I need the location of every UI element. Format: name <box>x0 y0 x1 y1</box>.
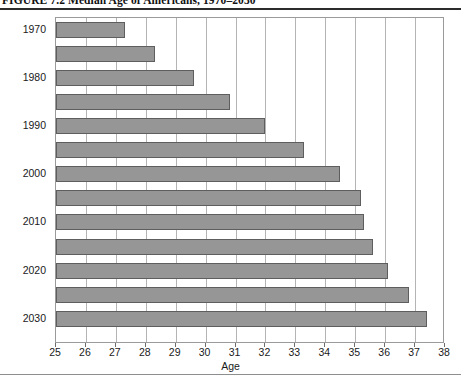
y-axis-tick-label: 2000 <box>23 167 46 179</box>
bars-layer <box>56 18 443 342</box>
x-axis-tick-label: 38 <box>438 346 450 358</box>
bar <box>56 239 373 255</box>
y-axis-labels: 1970198019902000201020202030 <box>0 17 51 343</box>
y-axis-tick-label: 2030 <box>23 312 46 324</box>
x-axis-tick-label: 34 <box>318 346 330 358</box>
bar <box>56 190 361 206</box>
title-divider <box>0 8 461 10</box>
x-axis-tick-label: 26 <box>79 346 91 358</box>
bar <box>56 94 230 110</box>
y-axis-tick-label: 2020 <box>23 264 46 276</box>
bar <box>56 142 304 158</box>
bar <box>56 166 340 182</box>
bar <box>56 263 388 279</box>
bar <box>56 22 125 38</box>
figure-container: FIGURE 7.2 Median Age of Americans, 1970… <box>0 0 461 377</box>
y-axis-tick-label: 1990 <box>23 119 46 131</box>
x-axis-tick-label: 27 <box>109 346 121 358</box>
x-axis-tick-label: 29 <box>169 346 181 358</box>
bar <box>56 70 194 86</box>
x-axis-tick-label: 37 <box>408 346 420 358</box>
figure-title-strip: FIGURE 7.2 Median Age of Americans, 1970… <box>0 0 461 8</box>
bar <box>56 311 427 327</box>
bar <box>56 287 409 303</box>
y-axis-tick-label: 1970 <box>23 23 46 35</box>
x-axis-tick-label: 30 <box>199 346 211 358</box>
figure-title: FIGURE 7.2 Median Age of Americans, 1970… <box>0 0 461 8</box>
x-axis-tick-label: 32 <box>259 346 271 358</box>
x-axis-tick-label: 31 <box>229 346 241 358</box>
x-axis-tick-label: 35 <box>348 346 360 358</box>
x-axis-tick-label: 36 <box>378 346 390 358</box>
x-axis-title: Age <box>0 360 461 372</box>
x-axis-tick-label: 33 <box>289 346 301 358</box>
bottom-divider <box>0 374 461 375</box>
x-axis-tick-label: 25 <box>49 346 61 358</box>
chart-plot-area <box>55 17 444 343</box>
bar <box>56 214 364 230</box>
y-axis-tick-label: 1980 <box>23 71 46 83</box>
x-axis-tick-label: 28 <box>139 346 151 358</box>
x-axis-labels: 2526272829303132333435363738 <box>0 346 461 360</box>
bar <box>56 118 265 134</box>
y-axis-tick-label: 2010 <box>23 215 46 227</box>
bar <box>56 46 155 62</box>
